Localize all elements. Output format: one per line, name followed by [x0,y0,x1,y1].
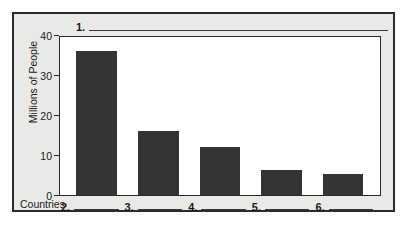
y-tick-10-label: 10 [40,151,59,161]
bar[interactable] [323,174,364,195]
title-blank[interactable]: 1. [76,17,388,33]
category-blank-rule[interactable] [74,209,118,210]
category-blank-number: 2. [61,202,70,213]
bar-slot [251,37,313,195]
chart-card: 1. Millions of People 40 30 20 10 0 Coun… [12,12,395,212]
category-blank-number: 4. [188,202,197,213]
bar[interactable] [76,51,117,195]
plot-area [59,36,381,196]
y-tick-30-label: 30 [40,71,59,81]
category-blank[interactable]: 4. [188,197,252,213]
worksheet-page: 1. Millions of People 40 30 20 10 0 Coun… [0,0,414,229]
y-tick-30: 30 [14,71,59,81]
bar[interactable] [138,131,179,195]
category-blank[interactable]: 2. [61,197,125,213]
category-blank-number: 5. [252,202,261,213]
bar-slot [128,37,190,195]
category-blank-number: 3. [125,202,134,213]
bar-slot [312,37,374,195]
category-blank-number: 6. [315,202,324,213]
category-blanks: 2. 3. 4. 5. 6. [59,197,381,213]
category-blank-rule[interactable] [138,209,182,210]
category-blank-rule[interactable] [201,209,245,210]
y-tick-40-label: 40 [40,31,59,41]
category-blank-rule[interactable] [329,209,373,210]
category-blank[interactable]: 3. [125,197,189,213]
bar[interactable] [200,147,241,195]
category-blank-rule[interactable] [265,209,309,210]
category-blank[interactable]: 6. [315,197,379,213]
y-tick-10: 10 [14,151,59,161]
bar[interactable] [261,170,302,195]
bar-slot [189,37,251,195]
y-tick-40: 40 [14,31,59,41]
bar-series [60,37,380,195]
y-tick-20: 20 [14,111,59,121]
bar-slot [66,37,128,195]
y-tick-20-label: 20 [40,111,59,121]
title-blank-rule[interactable] [89,30,388,31]
category-blank[interactable]: 5. [252,197,316,213]
title-blank-number: 1. [76,22,85,33]
